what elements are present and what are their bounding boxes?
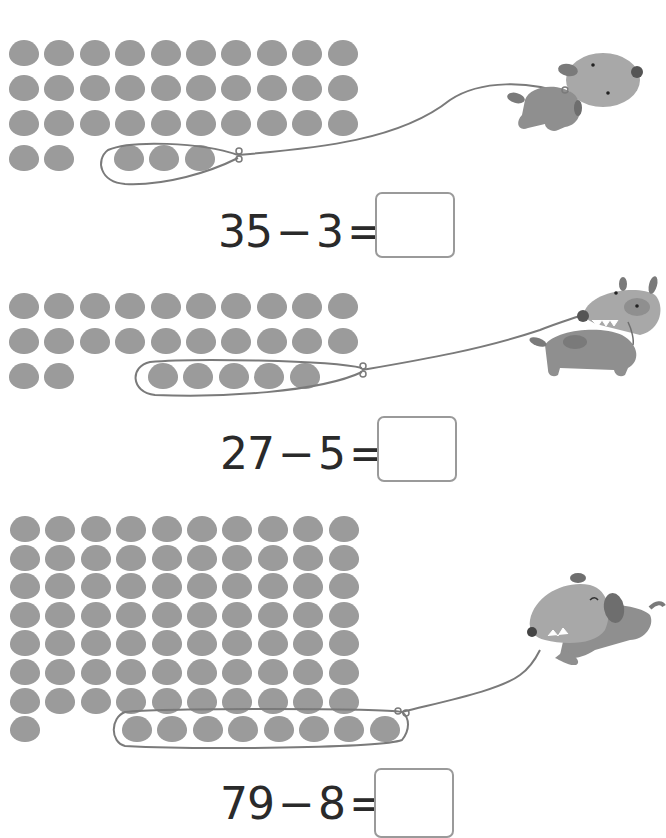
minuend: 79 [220,782,274,826]
minus-sign: − [278,782,314,826]
subtrahend: 8 [318,782,345,826]
equation-3: 79 − 8 = [220,782,389,826]
answer-box-3[interactable] [374,768,454,838]
